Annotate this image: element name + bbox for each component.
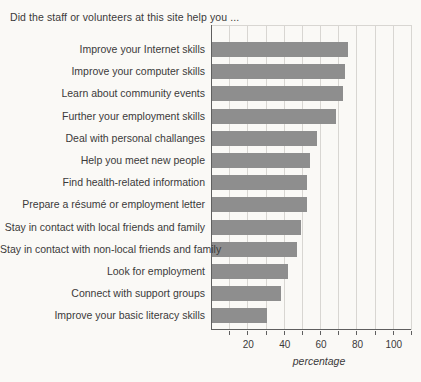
bar xyxy=(212,264,288,279)
x-tick xyxy=(375,331,376,335)
category-label: Further your employment skills xyxy=(0,109,205,124)
x-tick xyxy=(247,331,248,335)
x-tick-label: 80 xyxy=(352,339,363,350)
plot-area xyxy=(211,25,411,330)
category-label: Look for employment xyxy=(0,264,205,279)
x-axis-label: percentage xyxy=(219,355,419,367)
gridline xyxy=(375,25,376,330)
category-label: Improve your computer skills xyxy=(0,64,205,79)
gridline xyxy=(356,25,357,330)
bar xyxy=(212,64,345,79)
x-tick xyxy=(338,331,339,335)
x-tick-label: 40 xyxy=(279,339,290,350)
category-label: Help you meet new people xyxy=(0,153,205,168)
x-tick xyxy=(284,331,285,335)
category-label: Improve your basic literacy skills xyxy=(0,308,205,323)
bar xyxy=(212,308,267,323)
y-axis-spine xyxy=(211,25,212,330)
chart-title: Did the staff or volunteers at this site… xyxy=(10,11,239,23)
x-tick xyxy=(229,331,230,335)
x-tick xyxy=(320,331,321,335)
category-label: Prepare a résumé or employment letter xyxy=(0,197,205,212)
x-axis-line xyxy=(211,329,411,330)
x-tick xyxy=(411,331,412,335)
gridline xyxy=(393,25,394,330)
x-tick-label: 20 xyxy=(243,339,254,350)
category-label: Find health-related information xyxy=(0,175,205,190)
category-label: Stay in contact with local friends and f… xyxy=(0,220,205,235)
bar xyxy=(212,42,348,57)
x-tick xyxy=(393,331,394,335)
bar xyxy=(212,109,336,124)
bar xyxy=(212,86,343,101)
category-label: Deal with personal challanges xyxy=(0,131,205,146)
bar xyxy=(212,286,281,301)
category-label: Stay in contact with non-local friends a… xyxy=(0,242,205,257)
plot-top-border xyxy=(211,25,411,26)
category-label: Learn about community events xyxy=(0,86,205,101)
bar xyxy=(212,131,317,146)
category-label: Improve your Internet skills xyxy=(0,42,205,57)
x-tick-label: 100 xyxy=(385,339,402,350)
bar xyxy=(212,242,297,257)
x-tick xyxy=(302,331,303,335)
x-tick xyxy=(356,331,357,335)
x-tick-label: 60 xyxy=(316,339,327,350)
bar xyxy=(212,175,307,190)
bar xyxy=(212,197,307,212)
bar xyxy=(212,153,310,168)
x-tick xyxy=(266,331,267,335)
bar xyxy=(212,220,301,235)
category-label: Connect with support groups xyxy=(0,286,205,301)
gridline xyxy=(411,25,412,330)
